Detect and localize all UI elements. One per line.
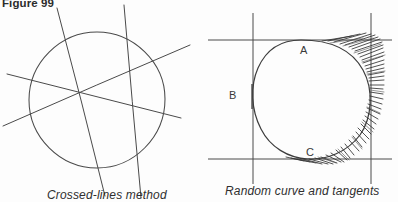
figure-container: Figure 99 bbox=[0, 0, 398, 202]
curve-point-label-c: C bbox=[306, 146, 314, 158]
chord-line-2 bbox=[124, 5, 141, 198]
random-curve-outline bbox=[253, 40, 371, 159]
caption-random-curve-and-tangents: Random curve and tangents bbox=[225, 184, 380, 198]
circle-outline bbox=[29, 32, 165, 168]
chord-line-1 bbox=[57, 8, 105, 196]
curve-point-label-a: A bbox=[300, 44, 307, 56]
tangent-strokes-lower-right bbox=[286, 104, 381, 164]
chord-line-3 bbox=[7, 74, 181, 118]
figure-drawing bbox=[0, 0, 398, 202]
panel-crossed-lines bbox=[3, 5, 190, 198]
chord-line-4 bbox=[3, 45, 190, 126]
curve-point-label-b: B bbox=[229, 89, 236, 101]
caption-crossed-lines-method: Crossed-lines method bbox=[47, 188, 167, 202]
